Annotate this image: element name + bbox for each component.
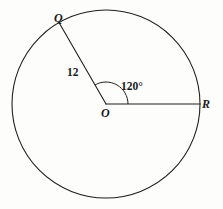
radius-length-label: 12: [67, 67, 79, 79]
point-label-q: Q: [54, 12, 63, 24]
point-label-o: O: [101, 107, 110, 119]
geometry-figure: Q O R 12 120°: [0, 0, 223, 209]
circle-diagram-svg: [0, 0, 223, 209]
central-angle-label: 120°: [121, 81, 143, 93]
radius-segment-oq: [59, 23, 106, 104]
point-label-r: R: [202, 98, 210, 110]
